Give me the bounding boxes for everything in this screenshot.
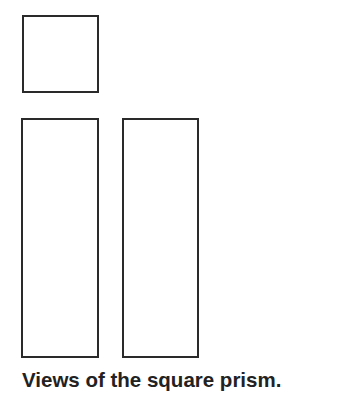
top-view-square [22,15,99,93]
figure-caption: Views of the square prism. [22,368,281,392]
side-view-rectangle [122,118,199,358]
front-view-rectangle [21,118,99,358]
